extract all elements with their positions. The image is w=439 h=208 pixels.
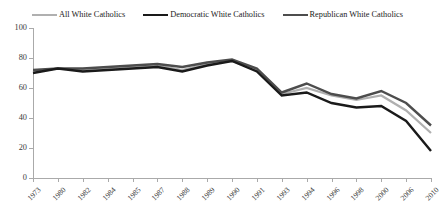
- x-tick-mark: [406, 178, 407, 182]
- x-tick-label: 1980: [51, 186, 67, 202]
- x-tick-label: 1990: [225, 186, 241, 202]
- legend-label-republican-white-catholics: Republican White Catholics: [310, 11, 403, 19]
- x-tick-mark: [108, 178, 109, 182]
- x-tick-mark: [182, 178, 183, 182]
- x-tick-mark: [232, 178, 233, 182]
- y-tick-label: 40: [19, 114, 27, 122]
- x-tick-label: 1991: [250, 186, 266, 202]
- x-tick-label: 2010: [424, 186, 439, 202]
- x-tick-label: 2000: [375, 186, 391, 202]
- x-tick-label: 1984: [101, 186, 117, 202]
- x-tick-label: 1973: [26, 186, 42, 202]
- legend-label-democratic-white-catholics: Democratic White Catholics: [170, 11, 264, 19]
- y-tick-label: 80: [19, 54, 27, 62]
- x-tick-mark: [58, 178, 59, 182]
- x-tick-label: 1987: [151, 186, 167, 202]
- x-tick-label: 1996: [325, 186, 341, 202]
- x-tick-label: 1988: [176, 186, 192, 202]
- legend-item-all-white-catholics: All White Catholics: [32, 11, 125, 19]
- x-tick-label: 1993: [275, 186, 291, 202]
- y-tick-label: 60: [19, 84, 27, 92]
- x-tick-mark: [332, 178, 333, 182]
- series-lines: [33, 28, 431, 178]
- x-tick-mark: [307, 178, 308, 182]
- x-tick-label: 2006: [399, 186, 415, 202]
- x-tick-label: 1985: [126, 186, 142, 202]
- x-tick-mark: [381, 178, 382, 182]
- x-tick-label: 1989: [200, 186, 216, 202]
- legend-item-democratic-white-catholics: Democratic White Catholics: [143, 11, 264, 19]
- y-tick-label: 100: [15, 24, 27, 32]
- x-tick-mark: [83, 178, 84, 182]
- x-tick-label: 1994: [300, 186, 316, 202]
- x-tick-label: 1998: [350, 186, 366, 202]
- series-line-democratic-white-catholics: [33, 61, 431, 151]
- legend-swatch-republican-white-catholics: [283, 14, 308, 16]
- chart-legend: All White Catholics Democratic White Cat…: [0, 8, 439, 22]
- legend-swatch-democratic-white-catholics: [143, 14, 168, 16]
- plot-area: 020406080100 197319801982198419851987198…: [33, 28, 431, 178]
- x-tick-mark: [257, 178, 258, 182]
- x-tick-mark: [282, 178, 283, 182]
- legend-item-republican-white-catholics: Republican White Catholics: [283, 11, 403, 19]
- x-tick-label: 1982: [76, 186, 92, 202]
- legend-swatch-all-white-catholics: [32, 14, 57, 16]
- line-chart: All White Catholics Democratic White Cat…: [0, 0, 439, 208]
- legend-label-all-white-catholics: All White Catholics: [59, 11, 125, 19]
- x-tick-mark: [33, 178, 34, 182]
- x-tick-mark: [356, 178, 357, 182]
- x-tick-mark: [133, 178, 134, 182]
- x-tick-mark: [431, 178, 432, 182]
- y-tick-label: 0: [23, 174, 27, 182]
- y-tick-label: 20: [19, 144, 27, 152]
- x-tick-mark: [157, 178, 158, 182]
- x-tick-mark: [207, 178, 208, 182]
